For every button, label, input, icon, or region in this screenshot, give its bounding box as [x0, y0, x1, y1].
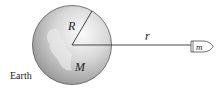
radius-label: R — [67, 19, 76, 33]
mass-label: M — [74, 60, 86, 74]
gravitation-diagram: R M r m Earth — [0, 0, 224, 92]
satellite-mass-label: m — [196, 42, 203, 52]
earth-label: Earth — [10, 70, 32, 81]
distance-label: r — [145, 29, 150, 43]
